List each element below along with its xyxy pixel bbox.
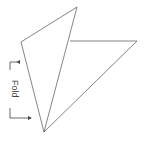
fold-label: Fold xyxy=(10,80,20,98)
fold-diagram: Fold xyxy=(0,0,145,142)
fold-line xyxy=(44,7,77,132)
right-triangle xyxy=(44,41,137,132)
